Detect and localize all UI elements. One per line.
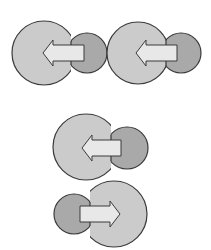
diagram-canvas <box>0 0 211 250</box>
figure-3-arrow-left <box>53 114 148 180</box>
figure-4-arrow-right <box>54 181 147 247</box>
figure-1-arrow-left <box>12 21 107 85</box>
figure-2-arrow-left <box>107 22 201 84</box>
